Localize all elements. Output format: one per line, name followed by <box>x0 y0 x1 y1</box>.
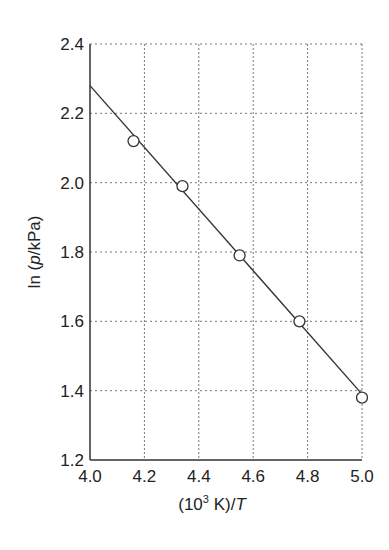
y-tick-label: 1.4 <box>60 382 84 401</box>
x-tick-label: 4.8 <box>296 467 320 486</box>
grid-lines <box>90 44 362 460</box>
scatter-chart: 4.04.24.44.64.85.0 1.21.41.61.82.02.22.4… <box>0 0 389 550</box>
y-tick-label: 2.4 <box>60 35 84 54</box>
data-point-marker <box>357 392 368 403</box>
fit-line <box>90 86 362 395</box>
y-tick-label: 1.6 <box>60 312 84 331</box>
regression-line <box>90 86 362 395</box>
y-tick-labels: 1.21.41.61.82.02.22.4 <box>60 35 84 470</box>
y-tick-label: 1.2 <box>60 451 84 470</box>
data-point-marker <box>128 136 139 147</box>
x-tick-label: 5.0 <box>350 467 374 486</box>
x-tick-label: 4.6 <box>241 467 265 486</box>
data-point-marker <box>294 316 305 327</box>
y-tick-label: 1.8 <box>60 243 84 262</box>
y-axis-label: ln (p/kPa) <box>25 216 44 289</box>
data-point-marker <box>234 250 245 261</box>
x-axis-label: (103 K)/T <box>178 493 247 514</box>
data-points <box>128 136 367 404</box>
y-tick-label: 2.0 <box>60 174 84 193</box>
x-tick-labels: 4.04.24.44.64.85.0 <box>78 467 374 486</box>
y-tick-label: 2.2 <box>60 104 84 123</box>
x-tick-label: 4.2 <box>133 467 157 486</box>
data-point-marker <box>177 181 188 192</box>
x-tick-label: 4.4 <box>187 467 211 486</box>
